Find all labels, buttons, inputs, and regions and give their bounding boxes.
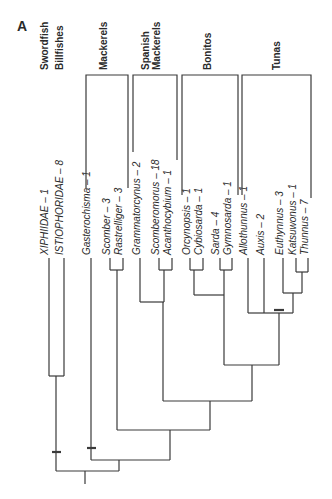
phylogenetic-tree bbox=[0, 0, 332, 499]
bracket-tunas bbox=[242, 75, 311, 198]
bracket-mackerels bbox=[86, 75, 128, 188]
bracket-spanish-mackerels bbox=[133, 75, 177, 160]
bracket-bonitos bbox=[182, 75, 238, 195]
